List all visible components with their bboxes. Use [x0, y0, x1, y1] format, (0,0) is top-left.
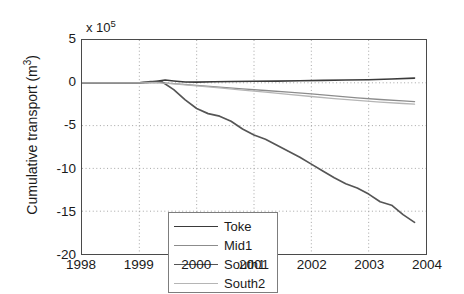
x-axis-tick-2004: 2004 — [412, 258, 442, 272]
legend-item-toke[interactable]: Toke — [169, 217, 277, 236]
figure-canvas: x 105 Cumulative transport (m3) 50-5-10-… — [0, 0, 464, 294]
x-axis-tick-2001: 2001 — [239, 258, 269, 272]
plot-area: TokeMid1South1South2 — [81, 39, 427, 255]
legend-swatch-toke-icon — [174, 226, 218, 227]
legend-label-south2: South2 — [224, 277, 265, 290]
series-line-mid1 — [82, 82, 415, 101]
y-axis-tick-neg5: -5 — [64, 118, 76, 132]
y-axis-tick-neg15: -15 — [56, 205, 76, 219]
y-axis-tick-5: 5 — [68, 32, 76, 46]
legend-box[interactable]: TokeMid1South1South2 — [168, 212, 278, 293]
x-axis-tick-1998: 1998 — [66, 258, 96, 272]
y-axis-tick-labels: 50-5-10-15-20 — [28, 0, 76, 294]
x-axis-tick-2003: 2003 — [354, 258, 384, 272]
y-axis-exponent-label: x 105 — [86, 18, 116, 35]
x-axis-tick-2002: 2002 — [297, 258, 327, 272]
legend-label-mid1: Mid1 — [224, 239, 252, 252]
series-line-south1 — [82, 82, 415, 223]
y-axis-exponent-prefix: x 10 — [86, 20, 111, 35]
series-line-south2 — [82, 83, 415, 105]
x-axis-tick-1999: 1999 — [124, 258, 154, 272]
legend-swatch-south2-icon — [174, 283, 218, 284]
y-axis-tick-neg10: -10 — [56, 162, 76, 176]
legend-item-south2[interactable]: South2 — [169, 274, 277, 293]
legend-swatch-mid1-icon — [174, 245, 218, 246]
y-axis-exponent-value: 5 — [111, 18, 116, 29]
y-axis-tick-0: 0 — [68, 75, 76, 89]
legend-item-mid1[interactable]: Mid1 — [169, 236, 277, 255]
x-axis-tick-2000: 2000 — [181, 258, 211, 272]
legend-label-toke: Toke — [224, 220, 251, 233]
